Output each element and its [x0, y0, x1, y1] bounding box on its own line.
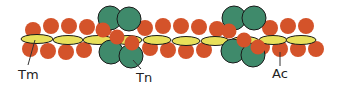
thin-filament-diagram: Tm Tn Ac	[0, 0, 339, 91]
label-tropomyosin: Tm	[18, 68, 39, 81]
label-actin: Ac	[272, 67, 288, 80]
actin-top-row	[25, 18, 314, 38]
label-troponin: Tn	[136, 71, 152, 84]
